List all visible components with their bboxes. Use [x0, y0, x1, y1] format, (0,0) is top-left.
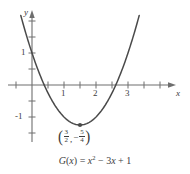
caption-equals: =: [80, 155, 86, 166]
close-paren: ): [85, 128, 90, 145]
y-axis-label: y: [24, 8, 28, 17]
vertex-y-denominator: 4: [79, 137, 85, 144]
x-axis: [8, 82, 176, 87]
caption-term3: 1: [126, 155, 131, 166]
plot-svg: [0, 0, 190, 150]
vertex-coordinate-label: ( 3 2 , − 5 4 ): [58, 129, 90, 145]
figure-caption: G(x) = x2 − 3x + 1: [0, 154, 190, 166]
caption-plus: +: [118, 155, 124, 166]
x-tick-label-2: 2: [93, 89, 98, 98]
caption-minus: −: [98, 155, 104, 166]
caption-term1-exponent: 2: [92, 154, 95, 161]
x-tick-label-1: 1: [61, 89, 66, 98]
caption-term2-variable: x: [111, 155, 115, 166]
x-tick-label-3: 3: [125, 89, 130, 98]
vertex-x-numerator: 3: [64, 129, 70, 136]
caption-close-paren: ): [74, 155, 77, 166]
vertex-comma: ,: [70, 134, 72, 145]
vertex-y-sign: −: [73, 132, 78, 142]
caption-function-name: G: [59, 155, 66, 166]
open-paren: (: [58, 128, 63, 145]
x-axis-label: x: [176, 89, 180, 98]
vertex-y-fraction: 5 4: [79, 129, 85, 145]
vertex-y-numerator: 5: [79, 129, 85, 136]
parabola-figure: y x 1 2 3 1 -1 ( 3 2 , − 5 4 ) G(x) = x2…: [0, 0, 190, 174]
vertex-x-denominator: 2: [64, 137, 70, 144]
plot-area: [0, 0, 190, 150]
y-axis: [29, 10, 34, 142]
y-tick-label-1: 1: [21, 48, 26, 57]
vertex-x-fraction: 3 2: [64, 129, 70, 145]
parabola-precise: [21, 15, 139, 125]
vertex-point: [78, 123, 82, 127]
parabola-curve: [21, 13, 40, 150]
y-tick-label-neg1: -1: [15, 112, 23, 121]
